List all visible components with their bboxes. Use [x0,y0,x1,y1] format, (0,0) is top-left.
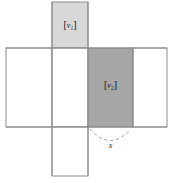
middle-blank-face [52,48,88,127]
top-face-label: [v1] [52,20,88,31]
x-dimension-label: x [88,141,133,150]
center-face-label: [v2] [88,80,133,91]
bottom-blank-face [52,127,88,176]
left-blank-face [6,48,52,127]
center-label-bracket-close: ] [114,79,117,90]
right-blank-face [133,48,167,127]
top-label-bracket-close: ] [73,19,76,30]
dimension-arc [90,129,131,141]
diagram-canvas: [v1] [v2] x [0,0,172,183]
